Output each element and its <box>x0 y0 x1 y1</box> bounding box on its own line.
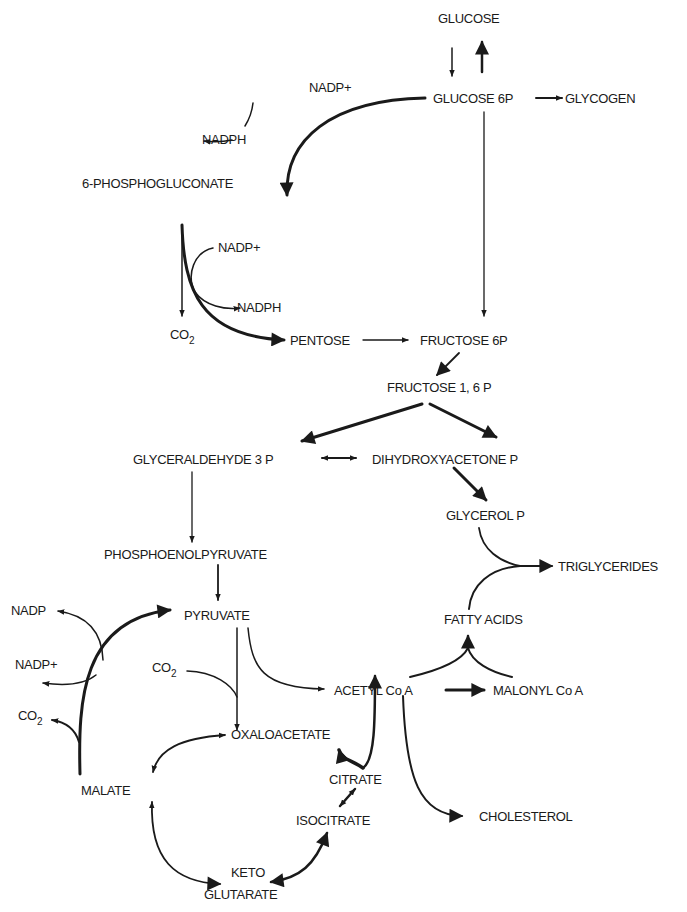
node-malate: MALATE <box>81 783 130 798</box>
node-glyceraldehyde-3p: GLYCERALDEHYDE 3 P <box>133 452 273 467</box>
node-glucose-6p: GLUCOSE 6P <box>433 91 513 106</box>
node-nadp-plus-2: NADP+ <box>218 240 260 255</box>
node-nadph-1: NADPH <box>202 132 246 147</box>
node-co2-1: CO2 <box>170 327 194 348</box>
node-pyruvate: PYRUVATE <box>184 608 250 623</box>
node-glutarate: GLUTARATE <box>204 887 277 902</box>
node-nadp-plus-1: NADP+ <box>309 80 351 95</box>
node-triglycerides: TRIGLYCERIDES <box>558 559 658 574</box>
node-dihydroxyacetone-p: DIHYDROXYACETONE P <box>372 452 518 467</box>
node-fructose-6p: FRUCTOSE 6P <box>420 333 507 348</box>
co2-label: CO <box>170 327 189 342</box>
node-nadp-plus-3: NADP+ <box>15 657 57 672</box>
node-citrate: CITRATE <box>329 772 382 787</box>
node-co2-3: CO2 <box>18 708 42 729</box>
co2-label: CO <box>18 708 37 723</box>
node-malonyl-coa: MALONYL Co A <box>493 683 583 698</box>
node-isocitrate: ISOCITRATE <box>296 813 370 828</box>
node-co2-2: CO2 <box>152 660 176 681</box>
co2-subscript: 2 <box>171 668 176 679</box>
node-cholesterol: CHOLESTEROL <box>479 809 573 824</box>
node-acetyl-coa: ACETYL Co A <box>334 683 413 698</box>
node-pentose: PENTOSE <box>290 333 350 348</box>
node-nadph-2: NADPH <box>237 300 281 315</box>
node-keto: KETO <box>231 865 265 880</box>
metabolic-pathway-diagram: GLUCOSE GLUCOSE 6P GLYCOGEN NADP+ NADPH … <box>0 0 687 912</box>
node-phosphoenolpyruvate: PHOSPHOENOLPYRUVATE <box>104 547 267 562</box>
node-glucose: GLUCOSE <box>438 11 499 26</box>
node-6-phosphogluconate: 6-PHOSPHOGLUCONATE <box>82 176 233 191</box>
node-glycogen: GLYCOGEN <box>565 91 635 106</box>
node-fructose-1-6p: FRUCTOSE 1, 6 P <box>387 380 491 395</box>
co2-label: CO <box>152 660 171 675</box>
co2-subscript: 2 <box>189 335 194 346</box>
co2-subscript: 2 <box>37 716 42 727</box>
node-glycerol-p: GLYCEROL P <box>446 508 525 523</box>
node-oxaloacetate: OXALOACETATE <box>231 727 330 742</box>
node-nadp: NADP <box>11 603 46 618</box>
node-fatty-acids: FATTY ACIDS <box>444 612 523 627</box>
